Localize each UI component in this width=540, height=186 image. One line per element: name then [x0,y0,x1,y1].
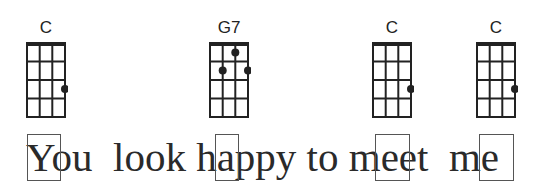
chord-change-box-Y [27,134,61,181]
chord-grid [209,42,251,120]
chord-grid [476,42,518,120]
chord-change-box-m1 [375,134,410,181]
chord-name: C [26,18,66,38]
chord-C-3: C [476,0,518,125]
finger-dot [407,85,414,93]
chord-grid [372,42,414,120]
finger-dot [219,67,227,75]
chord-name: G7 [209,18,249,38]
finger-dot [511,85,518,93]
chord-change-box-m2 [479,134,514,181]
chord-C-1: C [26,0,68,125]
chord-C-2: C [372,0,414,125]
chord-G7: G7 [209,0,251,125]
chord-change-box-h [215,134,239,181]
finger-dot [244,67,251,75]
finger-dot [231,49,239,57]
chord-name: C [476,18,516,38]
chord-name: C [372,18,412,38]
lyrics-line: You look happy to meet me [26,134,499,180]
chord-grid [26,42,68,120]
finger-dot [61,85,68,93]
